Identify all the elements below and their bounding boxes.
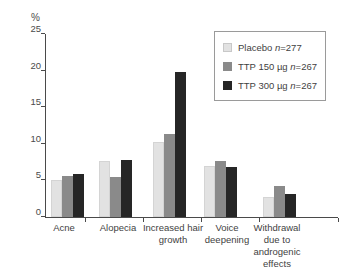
category-label-line: due to [232, 234, 322, 246]
bar-series0-cat2 [153, 142, 164, 217]
y-axis-tick [41, 179, 45, 180]
bar-series1-cat2 [164, 134, 175, 217]
bar-series1-cat4 [274, 186, 285, 217]
bar-series0-cat4 [263, 197, 274, 217]
legend: Placebo n=277TTP 150 µg n=267TTP 300 µg … [214, 31, 326, 101]
bar-series1-cat0 [62, 176, 73, 217]
y-axis-tick-label: 5 [11, 169, 41, 180]
bar-series2-cat0 [73, 174, 84, 217]
bar-series0-cat1 [99, 161, 110, 217]
y-axis-tick [41, 216, 45, 217]
category-label-line: effects [232, 258, 322, 270]
y-axis-unit-label: % [31, 12, 40, 23]
bar-chart-figure: % 0510152025 AcneAlopeciaIncreased hairg… [0, 0, 343, 278]
category-label-line: androgenic [232, 246, 322, 258]
bar-series0-cat0 [51, 180, 62, 217]
y-axis-tick-label: 25 [11, 23, 41, 34]
legend-swatch-icon [223, 62, 232, 71]
bar-series2-cat4 [285, 194, 296, 217]
bar-series1-cat3 [215, 161, 226, 217]
legend-item: TTP 300 µg n=267 [223, 76, 319, 95]
legend-item: TTP 150 µg n=267 [223, 57, 319, 76]
y-axis-tick-label: 20 [11, 59, 41, 70]
legend-swatch-icon [223, 81, 232, 90]
y-axis-tick-label: 0 [11, 206, 41, 217]
y-axis-tick-label: 10 [11, 132, 41, 143]
legend-item: Placebo n=277 [223, 38, 319, 57]
y-axis-tick [41, 33, 45, 34]
bar-series2-cat3 [226, 167, 237, 218]
y-axis-tick [41, 143, 45, 144]
x-axis-tick [338, 218, 339, 222]
legend-label: Placebo n=277 [238, 42, 302, 53]
category-label-line: Withdrawal [232, 222, 322, 234]
bar-series1-cat1 [110, 177, 121, 217]
y-axis-tick [41, 106, 45, 107]
legend-label: TTP 300 µg n=267 [238, 80, 317, 91]
legend-swatch-icon [223, 43, 232, 52]
category-label: Withdrawaldue toandrogeniceffects [232, 222, 322, 270]
bar-series0-cat3 [204, 166, 215, 217]
bar-series2-cat2 [175, 72, 186, 217]
y-axis-tick [41, 70, 45, 71]
bar-series2-cat1 [121, 160, 132, 217]
legend-label: TTP 150 µg n=267 [238, 61, 317, 72]
y-axis-tick-label: 15 [11, 96, 41, 107]
